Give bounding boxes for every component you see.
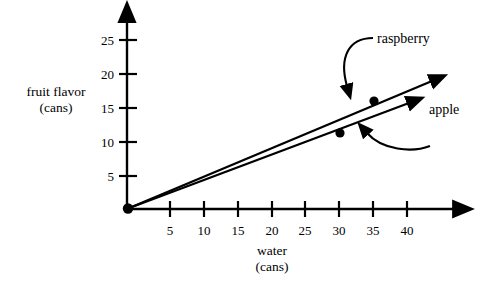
- x-tick-label-35: 35: [367, 224, 380, 237]
- x-axis-title-text: water: [232, 243, 312, 259]
- series-label-apple: apple: [429, 103, 459, 117]
- x-tick-label-15: 15: [232, 224, 245, 237]
- x-axis-title-units: (cans): [232, 259, 312, 275]
- x-tick-label-5: 5: [167, 224, 174, 237]
- data-point-origin: [123, 203, 133, 213]
- series-line-apple: [128, 103, 409, 209]
- x-tick-label-10: 10: [198, 224, 211, 237]
- x-tick-label-25: 25: [299, 224, 312, 237]
- x-tick-label-40: 40: [401, 224, 414, 237]
- x-tick-label-30: 30: [333, 224, 346, 237]
- annotation-arrow-raspberry: [344, 38, 373, 86]
- x-axis-title: water (cans): [232, 243, 312, 275]
- series-label-raspberry: raspberry: [377, 32, 430, 46]
- chart-figure: 5 10 15 20 25 30 35 40 5 10 15 20 25 fru…: [0, 0, 494, 292]
- y-axis-title-text: fruit flavor: [12, 84, 100, 100]
- y-axis-title-units: (cans): [12, 100, 100, 116]
- data-point-raspberry: [369, 96, 378, 105]
- y-tick-label-25: 25: [90, 34, 114, 47]
- annotation-arrow-apple: [367, 133, 430, 150]
- y-tick-label-10: 10: [90, 136, 114, 149]
- y-tick-label-20: 20: [90, 68, 114, 81]
- data-point-apple: [335, 128, 344, 137]
- x-tick-label-20: 20: [266, 224, 279, 237]
- y-tick-label-5: 5: [90, 170, 114, 183]
- y-axis-title: fruit flavor (cans): [12, 84, 100, 116]
